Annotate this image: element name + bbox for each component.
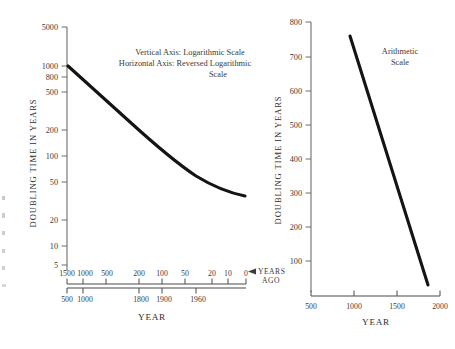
left-top-axis-title: YEARS	[258, 267, 285, 276]
right-y-tick-label: 200	[290, 223, 302, 232]
right-annotation-line-1: Arithmetic	[382, 47, 419, 56]
left-y-tick-marks	[62, 27, 68, 265]
right-y-tick-label: 600	[290, 87, 302, 96]
left-y-tick-label: 100	[46, 152, 58, 161]
left-bottom-tick-marks	[67, 288, 196, 294]
right-x-tick-marks	[311, 291, 440, 297]
left-bottom-tick-label: 1960	[190, 295, 206, 304]
left-top-tick-label: 1000	[77, 269, 93, 278]
left-y-tick-label: 10	[50, 242, 58, 251]
left-top-tick-label: 100	[156, 269, 168, 278]
right-panel: 800 700 600 500 400 300 200 100 DOUBLING…	[273, 18, 448, 327]
left-x-axis-title: YEAR	[138, 312, 166, 322]
left-annotation-line-3: Scale	[209, 70, 227, 79]
left-annotation-line-1: Vertical Axis: Logarithmic Scale	[135, 48, 245, 57]
right-x-axis-title: YEAR	[362, 317, 390, 327]
left-y-tick-label: 500	[46, 88, 58, 97]
left-top-tick-marks	[67, 279, 246, 285]
left-top-tick-label: 20	[208, 269, 216, 278]
years-ago-arrow-icon	[248, 269, 256, 275]
page-edge-artifacts	[2, 196, 6, 287]
left-y-tick-label: 5000	[42, 23, 58, 32]
right-x-tick-label: 1000	[346, 302, 362, 311]
left-top-tick-label: 500	[101, 269, 113, 278]
dual-panel-chart: 5000 1000 800 500 200 100 50 20 10 5 DOU…	[0, 0, 455, 349]
left-bottom-tick-label: 1000	[77, 295, 93, 304]
left-y-tick-label: 1000	[42, 62, 58, 71]
right-y-tick-marks	[306, 22, 312, 261]
right-y-tick-label: 500	[290, 121, 302, 130]
right-y-tick-label: 700	[290, 53, 302, 62]
left-bottom-tick-label: 1800	[133, 295, 149, 304]
right-x-tick-label: 500	[305, 302, 317, 311]
left-annotation-line-2: Horizontal Axis: Reversed Logarithmic	[119, 59, 252, 68]
left-data-curve	[68, 66, 245, 196]
right-annotation-line-2: Scale	[391, 58, 409, 67]
left-top-axis-title-2: AGO	[262, 276, 280, 285]
left-top-tick-label: 50	[181, 269, 189, 278]
left-bottom-tick-label: 500	[61, 295, 73, 304]
left-y-axis-title: DOUBLING TIME IN YEARS	[28, 99, 38, 228]
left-y-tick-label: 5	[54, 261, 58, 270]
left-y-tick-label: 200	[46, 126, 58, 135]
figure-root: 5000 1000 800 500 200 100 50 20 10 5 DOU…	[0, 0, 455, 349]
right-y-tick-label: 400	[290, 155, 302, 164]
left-panel: 5000 1000 800 500 200 100 50 20 10 5 DOU…	[28, 23, 285, 322]
left-y-tick-label: 50	[50, 178, 58, 187]
right-x-tick-label: 1500	[389, 302, 405, 311]
left-top-tick-label: 1500	[59, 269, 75, 278]
right-y-axis-title: DOUBLING TIME IN YEARS	[273, 96, 283, 225]
left-top-tick-label: 10	[224, 269, 232, 278]
right-y-tick-label: 800	[290, 18, 302, 27]
left-y-tick-label: 20	[50, 216, 58, 225]
right-y-tick-label: 100	[290, 257, 302, 266]
left-top-tick-label: 200	[133, 269, 145, 278]
right-y-tick-label: 300	[290, 189, 302, 198]
right-x-tick-label: 2000	[432, 302, 448, 311]
left-bottom-tick-label: 1900	[156, 295, 172, 304]
left-top-tick-label: 0	[244, 269, 248, 278]
left-y-tick-label: 800	[46, 73, 58, 82]
right-data-line	[350, 36, 428, 285]
